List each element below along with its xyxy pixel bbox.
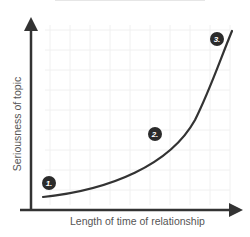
x-axis-label: Length of time of relationship	[70, 215, 205, 227]
x-axis-arrow-icon	[229, 203, 243, 217]
y-axis-arrow-icon	[24, 17, 38, 31]
marker-2: 2.	[148, 127, 162, 141]
growth-curve	[43, 31, 232, 197]
marker-3: 3.	[210, 32, 224, 46]
marker-1: 1.	[42, 176, 56, 190]
y-axis-label: Seriousness of topic	[11, 77, 23, 172]
grid	[45, 25, 230, 205]
